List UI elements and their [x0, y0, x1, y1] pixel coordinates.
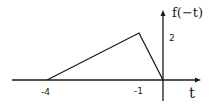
x-axis-arrow-icon: [195, 78, 201, 83]
y-axis-arrow-icon: [161, 10, 166, 16]
y-axis-label: f(−t): [172, 6, 203, 19]
signal-line: [47, 33, 163, 80]
x-tick-label-neg1: -1: [134, 87, 143, 96]
x-axis-label: t: [189, 86, 195, 101]
x-tick-label-neg4: -4: [41, 88, 50, 97]
signal-plot: -4 -1 2 t f(−t): [0, 0, 210, 107]
y-tick-label-2: 2: [169, 34, 175, 43]
